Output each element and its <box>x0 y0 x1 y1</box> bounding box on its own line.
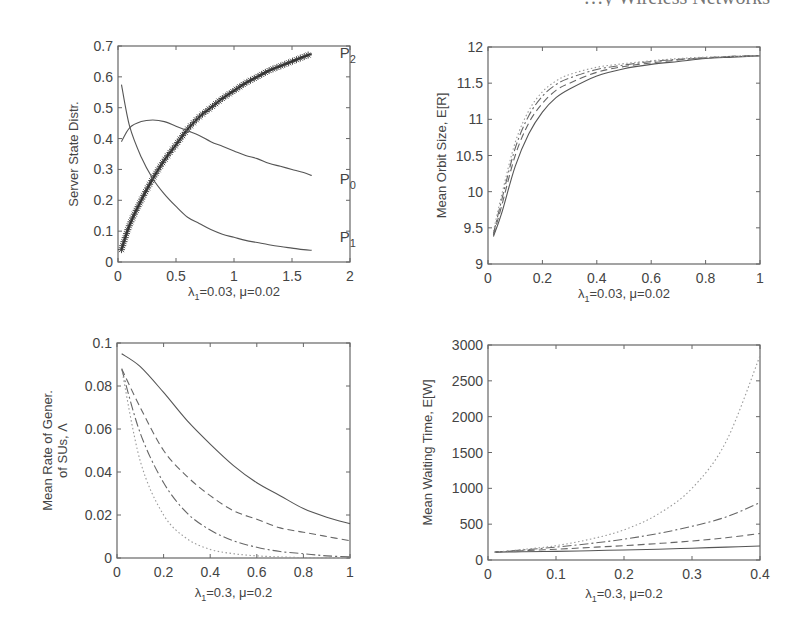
x-tick-label: 0.1 <box>546 566 566 582</box>
y-tick-label: 11 <box>468 111 483 127</box>
y-tick-label: 0.4 <box>94 131 114 147</box>
series-line-solid <box>493 56 760 237</box>
y-tick-label: 10.5 <box>456 148 483 164</box>
y-tick-label: 0.04 <box>85 464 112 480</box>
series-line-dash-dot <box>122 369 350 557</box>
y-tick-label: 12 <box>467 39 483 55</box>
curve-label-p2: P2 <box>340 44 356 65</box>
y-tick-label: 1000 <box>452 480 483 496</box>
y-tick-label: 2500 <box>452 373 483 389</box>
y-tick-label: 9 <box>475 256 483 272</box>
y-tick-label: 0.06 <box>85 421 112 437</box>
asterisk-marker <box>140 192 147 199</box>
x-tick-label: 0 <box>114 268 122 284</box>
y-tick-label: 0 <box>475 552 483 568</box>
series-line-dash-dot <box>495 503 760 552</box>
y-tick-label: 0 <box>105 254 113 270</box>
x-tick-label: 0.8 <box>696 270 716 286</box>
y-tick-label: 11.5 <box>457 75 483 91</box>
y-tick-label: 2000 <box>452 409 483 425</box>
x-tick-label: 0.6 <box>247 564 267 580</box>
x-tick-label: 1 <box>230 268 238 284</box>
x-tick-label: 0.4 <box>200 564 220 580</box>
y-tick-label: 0 <box>104 550 112 566</box>
y-axis-title: Mean Orbit Size, E[R] <box>434 93 449 219</box>
plot-area <box>488 345 760 560</box>
curve-label-p0: P0 <box>340 170 356 191</box>
x-tick-label: 0.2 <box>614 566 634 582</box>
series-line-dash-dot <box>493 56 760 234</box>
chart-server-state-distribution: 00.511.5200.10.20.30.40.50.60.7Server St… <box>66 38 356 302</box>
asterisk-marker <box>251 75 258 82</box>
series-line-p2 <box>121 54 311 250</box>
x-axis-caption: λ1=0.3, μ=0.2 <box>585 586 663 604</box>
asterisk-marker <box>142 188 149 195</box>
series-line-dotted <box>493 56 760 232</box>
x-axis-caption: λ1=0.03, μ=0.02 <box>578 286 670 304</box>
y-tick-label: 0.6 <box>94 69 114 85</box>
y-axis-title: of SUs, Λ <box>55 423 70 478</box>
asterisk-marker <box>305 52 312 59</box>
chart-mean-orbit-size: 00.20.40.60.8199.51010.51111.512Mean Orb… <box>434 39 764 304</box>
series-line-p0 <box>121 120 311 176</box>
x-tick-label: 1.5 <box>282 268 302 284</box>
x-tick-label: 0.5 <box>166 268 186 284</box>
y-tick-label: 10 <box>467 184 483 200</box>
x-tick-label: 0.4 <box>587 270 607 286</box>
x-tick-label: 0.6 <box>641 270 661 286</box>
y-tick-label: 0.5 <box>94 100 114 116</box>
series-line-dotted <box>122 369 350 558</box>
y-tick-label: 500 <box>460 516 484 532</box>
x-tick-label: 0.2 <box>154 564 174 580</box>
y-tick-label: 1500 <box>452 445 483 461</box>
x-tick-label: 0.3 <box>682 566 702 582</box>
x-tick-label: 0 <box>113 564 121 580</box>
y-tick-label: 9.5 <box>464 220 484 236</box>
y-tick-label: 0.3 <box>94 161 114 177</box>
x-tick-label: 2 <box>346 268 354 284</box>
y-axis-title: Mean Rate of Gener. <box>40 390 55 511</box>
x-tick-label: 1 <box>756 270 764 286</box>
x-tick-label: 0.2 <box>533 270 553 286</box>
plot-area <box>117 343 350 558</box>
y-tick-label: 0.2 <box>94 192 114 208</box>
x-tick-label: 1 <box>346 564 354 580</box>
x-tick-label: 0.8 <box>294 564 314 580</box>
series-line-dotted <box>495 356 760 552</box>
series-line-dashed <box>493 56 760 235</box>
x-tick-label: 0 <box>484 270 492 286</box>
y-tick-label: 0.02 <box>85 507 112 523</box>
y-tick-label: 0.08 <box>85 378 112 394</box>
plot-area <box>118 46 350 262</box>
x-tick-label: 0 <box>484 566 492 582</box>
y-tick-label: 0.1 <box>94 223 114 239</box>
curve-label-p1: P1 <box>340 228 356 249</box>
x-axis-caption: λ1=0.3, μ=0.2 <box>195 585 273 603</box>
x-tick-label: 0.4 <box>750 566 770 582</box>
plot-area <box>488 47 760 264</box>
y-tick-label: 0.1 <box>93 335 113 351</box>
y-axis-title: Mean Waiting Time, E[W] <box>420 379 435 525</box>
series-line-dashed <box>122 369 350 541</box>
y-tick-label: 0.7 <box>94 38 114 54</box>
chart-mean-waiting-time: 00.10.20.30.4050010001500200025003000Mea… <box>420 337 770 604</box>
x-axis-caption: λ1=0.03, μ=0.02 <box>188 284 280 302</box>
figure-canvas: 00.511.5200.10.20.30.40.50.60.7Server St… <box>0 0 796 638</box>
y-tick-label: 3000 <box>452 337 483 353</box>
chart-mean-rate-generation: 00.20.40.60.8100.020.040.060.080.1Mean R… <box>40 335 354 603</box>
y-axis-title: Server State Distr. <box>66 101 81 206</box>
